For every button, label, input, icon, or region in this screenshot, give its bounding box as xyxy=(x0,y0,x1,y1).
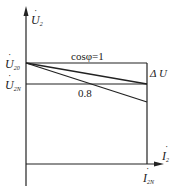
delta-u-label: Δ U xyxy=(150,68,167,79)
i2n-label: ˙I2N xyxy=(143,172,154,185)
curve-label-0.8: 0.8 xyxy=(78,88,92,99)
y-axis-label: ˙U2 xyxy=(31,14,43,27)
curve-cosphi-1 xyxy=(26,63,147,84)
y-axis-arrow-icon xyxy=(24,6,29,16)
x-axis-label: ˙I2 xyxy=(162,150,169,163)
u20-label: ˙U20 xyxy=(5,58,20,71)
u2n-label: ˙U2N xyxy=(5,79,21,92)
curve-label-cosphi-1: cosφ=1 xyxy=(71,51,104,62)
